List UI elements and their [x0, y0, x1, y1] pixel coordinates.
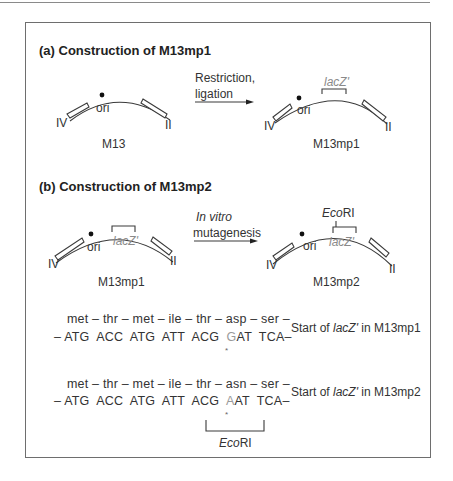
ecori-italic: Eco — [322, 206, 343, 220]
lacz-insert-label: lacZ' — [324, 76, 349, 88]
ori-label: ori — [297, 104, 310, 116]
plasmid-name-m13mp2: M13mp2 — [313, 276, 360, 288]
codon-row-m13mp1: – ATG ACC ATG ATT ACG GAT TCA– — [54, 331, 292, 344]
gene-iv-label: IV — [266, 259, 277, 271]
gene-ii-label: II — [170, 255, 177, 267]
plasmid-name-m13: M13 — [102, 138, 125, 150]
ori-label: ori — [96, 102, 109, 114]
gene-iv-label: IV — [264, 120, 275, 132]
codons-after: AT TCA– — [237, 330, 292, 344]
ori-label: ori — [87, 241, 100, 253]
panel-b-heading: (b) Construction of M13mp2 — [39, 180, 212, 193]
gene-name: lacZ' — [333, 321, 358, 335]
mutation-marker: * — [225, 347, 228, 355]
codons-before: – ATG ACC ATG ATT ACG — [54, 394, 226, 408]
ecori-site-label: EcoRI — [322, 207, 355, 219]
mutation-marker: * — [225, 411, 228, 419]
arrow-label-line2: mutagenesis — [193, 227, 261, 239]
gene-ii-label: II — [385, 121, 392, 133]
ecori-bracket-label: EcoRI — [219, 437, 252, 449]
gene-name: lacZ' — [333, 385, 358, 399]
plasmid-name-m13mp1: M13mp1 — [313, 138, 360, 150]
arrow-label-line1: In vitro — [196, 211, 232, 223]
codons-before: – ATG ACC ATG ATT ACG — [54, 330, 227, 344]
plasmid-name-m13mp1: M13mp1 — [98, 276, 145, 288]
top-rule — [0, 2, 430, 3]
codons-after: AT TCA– — [234, 394, 289, 408]
codon-row-m13mp2: – ATG ACC ATG ATT ACG AAT TCA– — [54, 395, 290, 408]
gene-iv-label: IV — [48, 258, 59, 270]
ori-label: ori — [303, 240, 316, 252]
amino-acid-row-m13mp1: met – thr – met – ile – thr – asp – ser … — [67, 313, 290, 326]
lacz-insert-label: lacZ' — [329, 236, 354, 248]
caption-m13mp2: Start of lacZ' in M13mp2 — [291, 386, 421, 398]
gene-ii-label: II — [165, 119, 172, 131]
amino-acid-row-m13mp2: met – thr – met – ile – thr – asn – ser … — [67, 378, 290, 391]
gene-ii-label: II — [389, 263, 396, 275]
mutated-base: G — [227, 330, 237, 344]
arrow-label-line2: ligation — [195, 88, 233, 100]
arrow-label-line1: Restriction, — [195, 72, 255, 84]
ecori-roman: RI — [343, 206, 355, 220]
panel-a-heading: (a) Construction of M13mp1 — [39, 44, 211, 57]
gene-iv-label: IV — [56, 117, 67, 129]
caption-m13mp1: Start of lacZ' in M13mp1 — [291, 322, 421, 334]
lacz-insert-label: lacZ' — [113, 235, 138, 247]
